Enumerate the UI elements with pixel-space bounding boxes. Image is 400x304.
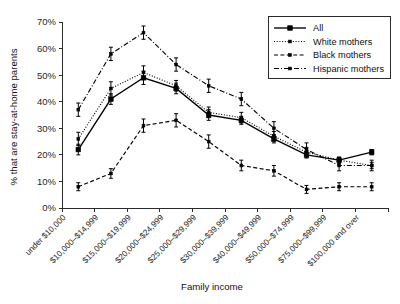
data-point-marker xyxy=(76,147,81,152)
data-point-marker xyxy=(370,164,373,167)
chart-container: 0%10%20%30%40%50%60%70% under $10,000$10… xyxy=(0,0,400,304)
y-tick-label: 20% xyxy=(37,149,57,160)
y-axis-title: % that are stay-at-home parents xyxy=(8,48,19,185)
data-point-marker xyxy=(305,148,308,151)
x-axis-title: Family income xyxy=(181,281,243,292)
data-point-marker xyxy=(77,185,80,188)
legend-item-label: Black mothers xyxy=(313,50,372,60)
data-point-marker xyxy=(109,97,114,102)
data-point-marker xyxy=(370,185,373,188)
chart-legend: AllWhite mothersBlack mothersHispanic mo… xyxy=(268,16,390,78)
line-chart: 0%10%20%30%40%50%60%70% under $10,000$10… xyxy=(0,0,400,304)
data-point-marker xyxy=(207,140,210,143)
data-point-marker xyxy=(305,188,308,191)
data-point-marker xyxy=(338,164,341,167)
legend-item-label: All xyxy=(313,23,323,33)
data-point-marker xyxy=(142,71,145,74)
data-point-marker xyxy=(77,138,80,141)
legend-marker-swatch xyxy=(288,26,293,31)
data-point-marker xyxy=(240,98,243,101)
data-point-marker xyxy=(273,127,276,130)
y-tick-label: 70% xyxy=(37,16,57,27)
legend-marker-swatch xyxy=(289,54,292,57)
legend-item-label: White mothers xyxy=(313,37,373,47)
y-tick-label: 10% xyxy=(37,176,57,187)
legend-item-label: Hispanic mothers xyxy=(313,64,384,74)
data-point-marker xyxy=(175,63,178,66)
y-tick-label: 0% xyxy=(42,202,56,213)
data-point-marker xyxy=(110,172,113,175)
y-tick-label: 60% xyxy=(37,43,57,54)
data-point-marker xyxy=(240,116,243,119)
data-point-marker xyxy=(142,31,145,34)
legend-marker-swatch xyxy=(289,67,292,70)
y-tick-label: 50% xyxy=(37,70,57,81)
data-point-marker xyxy=(207,84,210,87)
y-tick-label: 30% xyxy=(37,123,57,134)
data-point-marker xyxy=(175,84,178,87)
data-point-marker xyxy=(369,150,374,155)
data-point-marker xyxy=(240,164,243,167)
data-point-marker xyxy=(207,111,210,114)
data-point-marker xyxy=(175,119,178,122)
data-point-marker xyxy=(110,52,113,55)
data-point-marker xyxy=(273,169,276,172)
legend-marker-swatch xyxy=(289,40,292,43)
data-point-marker xyxy=(338,185,341,188)
y-tick-label: 40% xyxy=(37,96,57,107)
data-point-marker xyxy=(110,87,113,90)
data-point-marker xyxy=(77,108,80,111)
data-point-marker xyxy=(142,124,145,127)
